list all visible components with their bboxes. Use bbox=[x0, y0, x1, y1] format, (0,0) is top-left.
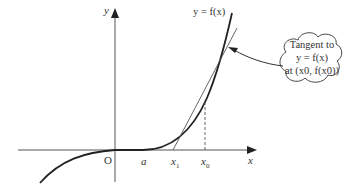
tick-label-a: a bbox=[141, 155, 147, 167]
callout-line-1: Tangent to bbox=[282, 38, 342, 51]
tick-label-x1: x1 bbox=[171, 155, 179, 170]
x-axis-arrow-icon bbox=[247, 146, 257, 154]
x1-subscript: 1 bbox=[176, 162, 180, 170]
x-axis-label: x bbox=[248, 154, 253, 166]
curve-label: y = f(x) bbox=[193, 6, 225, 17]
callout-text: Tangent to y = f(x) at (x0, f(x0)) bbox=[282, 38, 342, 77]
tangent-line bbox=[173, 28, 237, 150]
callout-arrow-head-icon bbox=[228, 47, 238, 53]
callout-arrow bbox=[234, 50, 283, 66]
callout-line-3: at (x0, f(x0)) bbox=[282, 64, 342, 77]
tick-label-x0: x0 bbox=[201, 155, 209, 170]
origin-label: O bbox=[104, 154, 112, 166]
x0-subscript: 0 bbox=[206, 162, 210, 170]
y-axis-arrow-icon bbox=[111, 8, 119, 18]
y-axis-label: y bbox=[104, 4, 109, 16]
callout-line-2: y = f(x) bbox=[282, 51, 342, 64]
